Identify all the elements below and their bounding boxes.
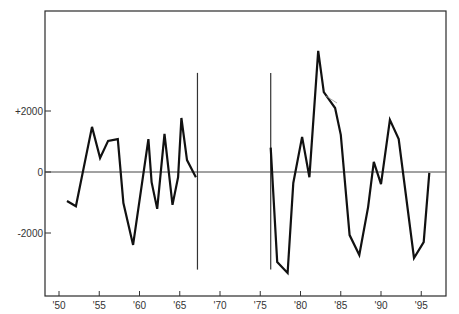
series-line-period-2 <box>271 51 430 273</box>
x-tick-label: '75 <box>254 300 267 311</box>
x-tick-label: '60 <box>133 300 146 311</box>
x-axis-ticks: '50'55'60'65'70'75'80'85'90'95 <box>52 291 428 311</box>
y-tick-label: +2000 <box>15 106 44 117</box>
x-tick-label: '80 <box>294 300 307 311</box>
x-tick-label: '95 <box>415 300 428 311</box>
x-tick-label: '65 <box>173 300 186 311</box>
x-tick-label: '90 <box>374 300 387 311</box>
data-series <box>67 51 429 273</box>
line-chart: '50'55'60'65'70'75'80'85'90'95 +20000-20… <box>0 0 459 314</box>
x-tick-label: '70 <box>213 300 226 311</box>
series-line-period-1 <box>67 118 196 245</box>
x-tick-label: '50 <box>52 300 65 311</box>
x-tick-label: '55 <box>93 300 106 311</box>
y-tick-label: 0 <box>37 167 43 178</box>
x-tick-label: '85 <box>334 300 347 311</box>
vertical-divider-lines <box>197 73 270 270</box>
y-tick-label: -2000 <box>17 228 43 239</box>
